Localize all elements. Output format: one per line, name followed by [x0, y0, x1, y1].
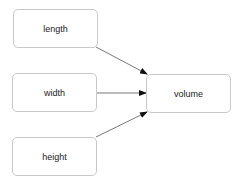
- node-label: width: [44, 88, 65, 98]
- edge-length-volume: [96, 47, 147, 74]
- node-label: height: [42, 152, 67, 162]
- node-label: volume: [174, 89, 203, 99]
- node-width[interactable]: width: [12, 73, 97, 112]
- node-length[interactable]: length: [13, 9, 98, 48]
- node-label: length: [43, 24, 68, 34]
- node-volume[interactable]: volume: [146, 74, 231, 113]
- node-height[interactable]: height: [12, 137, 97, 176]
- edge-height-volume: [96, 112, 147, 137]
